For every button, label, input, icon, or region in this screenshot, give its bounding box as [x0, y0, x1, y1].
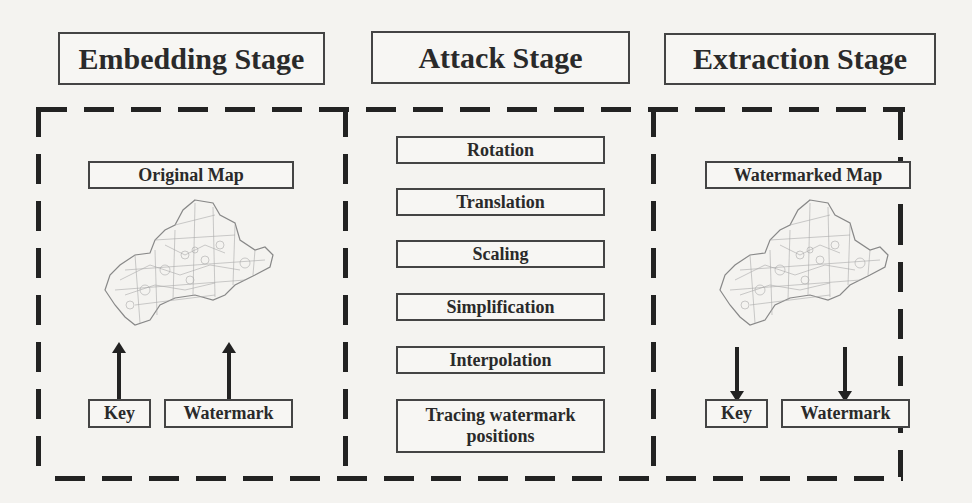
watermarked-map-image: [710, 195, 910, 345]
watermark-arrow-up: [227, 352, 231, 399]
watermark-arrow-down: [843, 347, 847, 392]
attack-op-text: Rotation: [467, 140, 534, 161]
embedding-stage-title: Embedding Stage: [58, 32, 325, 85]
original-map-label: Original Map: [88, 161, 294, 189]
embedding-stage-title-text: Embedding Stage: [79, 42, 305, 76]
dashed-divider-right: [651, 107, 656, 479]
attack-op-tracing: Tracing watermark positions: [396, 399, 605, 453]
attack-op-rotation: Rotation: [396, 136, 605, 164]
attack-op-text: Simplification: [446, 297, 554, 318]
extraction-key-box: Key: [705, 399, 768, 428]
embedding-key-text: Key: [104, 403, 135, 424]
dashed-frame-left: [36, 107, 41, 479]
original-map-image: [95, 195, 295, 345]
attack-op-simplification: Simplification: [396, 293, 605, 321]
dashed-frame-bottom-line: [55, 476, 903, 481]
attack-op-translation: Translation: [396, 188, 605, 216]
extraction-watermark-text: Watermark: [801, 403, 891, 424]
embedding-watermark-box: Watermark: [164, 399, 293, 428]
embedding-watermark-text: Watermark: [184, 403, 274, 424]
watermarked-map-label: Watermarked Map: [705, 161, 911, 189]
embedding-key-box: Key: [88, 399, 151, 428]
dashed-divider-left: [343, 107, 348, 479]
attack-op-interpolation: Interpolation: [396, 346, 605, 374]
extraction-stage-title-text: Extraction Stage: [693, 42, 907, 76]
attack-stage-title: Attack Stage: [371, 31, 630, 84]
extraction-key-text: Key: [721, 403, 752, 424]
attack-op-text: Translation: [456, 192, 545, 213]
attack-stage-title-text: Attack Stage: [418, 41, 582, 75]
key-arrow-down: [735, 347, 739, 392]
attack-op-text: Scaling: [472, 244, 528, 265]
original-map-label-text: Original Map: [138, 165, 244, 186]
watermarked-map-label-text: Watermarked Map: [734, 165, 882, 186]
key-arrow-up: [117, 352, 121, 399]
extraction-stage-title: Extraction Stage: [664, 33, 936, 85]
dashed-frame-top: [37, 107, 905, 112]
attack-op-text: Interpolation: [449, 350, 551, 371]
extraction-watermark-box: Watermark: [781, 399, 910, 428]
attack-op-scaling: Scaling: [396, 240, 605, 268]
attack-op-text: Tracing watermark positions: [412, 405, 589, 447]
